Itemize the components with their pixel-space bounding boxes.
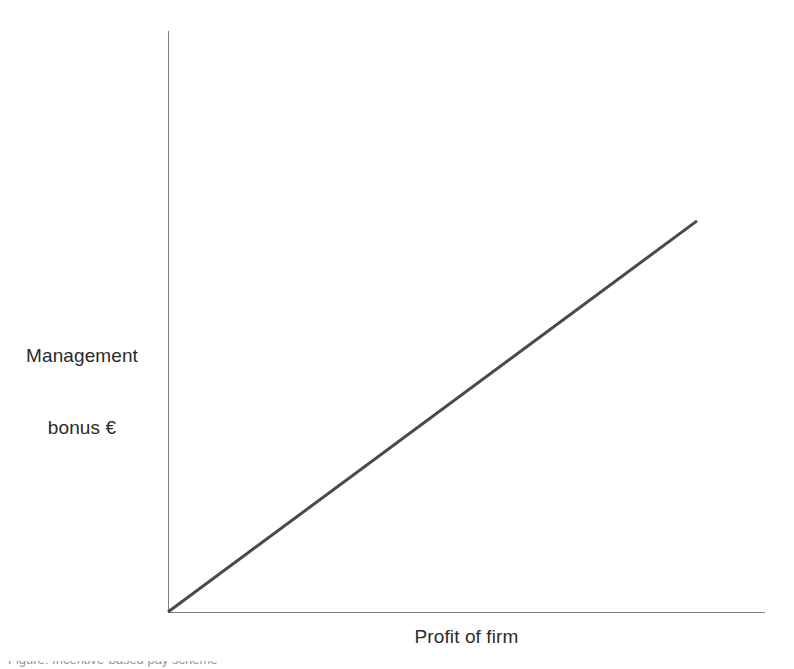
y-axis-label-line1: Management [0,344,164,368]
chart-figure: Management bonus € Profit of firm Figure… [0,0,794,669]
y-axis-label: Management bonus € [0,296,164,488]
figure-caption-text: Figure: Incentive-based pay scheme [8,661,218,668]
x-axis-label: Profit of firm [168,625,765,649]
figure-caption-cropped: Figure: Incentive-based pay scheme [8,661,528,669]
y-axis-label-line2: bonus € [0,416,164,440]
